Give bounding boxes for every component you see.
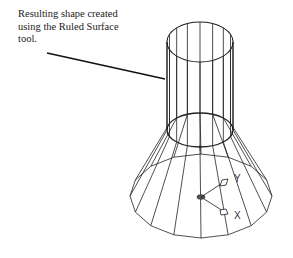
wireframe bbox=[130, 22, 272, 238]
cylinder-rulings bbox=[167, 22, 233, 147]
diagram-canvas: Resulting shape created using the Ruled … bbox=[0, 0, 293, 258]
ruled-surface-drawing: Y X bbox=[0, 0, 293, 258]
cone-rulings bbox=[130, 113, 272, 238]
leader-line bbox=[47, 53, 165, 79]
ucs-x-label: X bbox=[234, 210, 241, 221]
ucs-y-label: Y bbox=[234, 173, 241, 184]
